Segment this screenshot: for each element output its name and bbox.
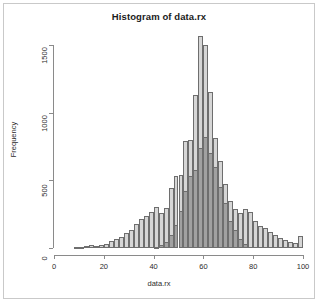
x-tick-mark	[54, 255, 55, 259]
histogram-bar	[298, 236, 303, 248]
histogram-screenshot: Histogram of data.rx 050010001500 020406…	[0, 0, 318, 302]
y-axis-line	[53, 45, 54, 248]
x-tick-mark	[303, 255, 304, 259]
x-tick-label: 60	[191, 262, 215, 271]
x-tick-mark	[154, 255, 155, 259]
y-tick-label: 500	[40, 180, 49, 202]
histogram-bar	[243, 244, 248, 248]
x-tick-label: 0	[42, 262, 66, 271]
y-tick-mark	[49, 180, 53, 181]
x-tick-label: 20	[92, 262, 116, 271]
x-tick-mark	[104, 255, 105, 259]
y-tick-mark	[49, 248, 53, 249]
y-tick-label: 1000	[40, 112, 49, 134]
y-tick-label: 1500	[40, 45, 49, 67]
x-axis-line	[54, 255, 304, 256]
y-tick-mark	[49, 45, 53, 46]
x-tick-label: 40	[142, 262, 166, 271]
plot-area: 050010001500 020406080100 Frequency data…	[0, 0, 318, 302]
x-tick-label: 80	[241, 262, 265, 271]
x-tick-mark	[203, 255, 204, 259]
x-tick-mark	[253, 255, 254, 259]
y-axis-label: Frequency	[9, 110, 18, 170]
x-axis-label: data.rx	[0, 279, 318, 288]
x-tick-label: 100	[291, 262, 315, 271]
y-tick-mark	[49, 113, 53, 114]
